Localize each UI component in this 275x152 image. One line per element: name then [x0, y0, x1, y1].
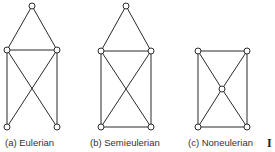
edge: [101, 6, 126, 51]
caption-noneulerian: (c) Noneulerian: [188, 137, 253, 148]
edge: [198, 89, 222, 127]
graph-a: [4, 3, 60, 130]
edge: [126, 6, 151, 51]
graph-diagram: [0, 0, 275, 152]
clipped-text: I: [267, 136, 272, 151]
vertex: [244, 48, 250, 54]
edge: [32, 6, 57, 50]
vertex: [29, 3, 35, 9]
caption-semieulerian: (b) Semieulerian: [90, 137, 160, 148]
vertex: [54, 124, 60, 130]
vertex: [195, 124, 201, 130]
edge: [198, 51, 222, 89]
vertex: [148, 48, 154, 54]
vertex: [98, 124, 104, 130]
edge: [222, 51, 247, 89]
graph-b: [98, 3, 154, 130]
vertex: [4, 124, 10, 130]
vertex: [219, 86, 225, 92]
vertex: [4, 47, 10, 53]
vertex: [54, 47, 60, 53]
vertex: [195, 48, 201, 54]
vertex: [123, 3, 129, 9]
edge: [222, 89, 247, 127]
vertex: [148, 124, 154, 130]
graph-c: [195, 48, 250, 130]
vertex: [244, 124, 250, 130]
vertex: [98, 48, 104, 54]
edge: [7, 6, 32, 50]
caption-eulerian: (a) Eulerian: [5, 137, 54, 148]
